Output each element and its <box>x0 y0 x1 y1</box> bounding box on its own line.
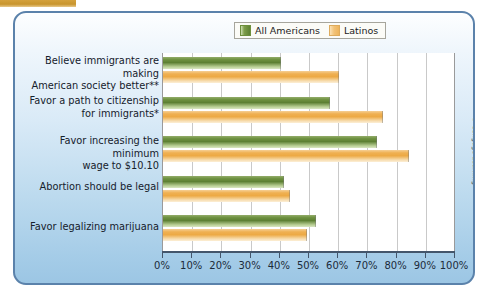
x-axis-tick <box>279 253 280 258</box>
category-axis-labels: Believe immigrants are making American s… <box>25 53 159 251</box>
category-label-4-line-0: Favor legalizing marijuana <box>25 221 159 234</box>
bar-latinos <box>163 111 383 123</box>
bar-all-americans <box>163 176 284 188</box>
bar-group <box>163 211 455 251</box>
x-axis-tick-label: 90% <box>414 260 436 271</box>
chart-panel: All Americans Latinos Believe immigrants… <box>13 11 475 285</box>
x-axis-tick-label: 60% <box>326 260 348 271</box>
chart-legend: All Americans Latinos <box>234 22 386 39</box>
bar-all-americans <box>163 136 377 148</box>
legend-swatch-green-icon <box>240 25 251 36</box>
x-axis-tick <box>220 253 221 258</box>
plot-area <box>162 53 455 251</box>
legend-label-all-americans: All Americans <box>255 26 320 36</box>
category-label-1-line-1: for immigrants* <box>25 108 159 121</box>
category-label-1: Favor a path to citizenship for immigran… <box>25 95 159 120</box>
x-axis-tick-label: 0% <box>154 260 170 271</box>
category-label-4: Favor legalizing marijuana <box>25 221 159 234</box>
category-label-2-line-1: wage to $10.10 <box>25 160 159 173</box>
legend-swatch-orange-icon <box>329 25 340 36</box>
bar-latinos <box>163 229 307 241</box>
category-label-0-line-1: American society better** <box>25 80 159 93</box>
bar-group <box>163 172 455 212</box>
copyright-credit: © Cengage Learning <box>471 116 475 185</box>
x-axis-tick <box>454 253 455 258</box>
x-axis-tick-label: 40% <box>268 260 290 271</box>
x-axis-tick <box>162 253 163 258</box>
page-accent-tab <box>0 0 76 7</box>
x-axis-tick <box>337 253 338 258</box>
x-axis-tick <box>425 253 426 258</box>
bar-latinos <box>163 150 409 162</box>
bar-group <box>163 53 455 93</box>
bar-latinos <box>163 71 339 83</box>
x-axis-tick-label: 50% <box>297 260 319 271</box>
legend-label-latinos: Latinos <box>344 26 378 36</box>
x-axis-tick-label: 80% <box>384 260 406 271</box>
category-label-2: Favor increasing the minimum wage to $10… <box>25 135 159 173</box>
bar-all-americans <box>163 97 330 109</box>
legend-entry-latinos: Latinos <box>329 25 378 36</box>
x-axis-tick <box>308 253 309 258</box>
category-label-0-line-0: Believe immigrants are making <box>25 55 159 80</box>
x-axis-tick <box>250 253 251 258</box>
category-label-2-line-0: Favor increasing the minimum <box>25 135 159 160</box>
x-axis-tick <box>366 253 367 258</box>
bar-group <box>163 132 455 172</box>
bar-group <box>163 93 455 133</box>
legend-entry-all-americans: All Americans <box>240 25 320 36</box>
x-axis-tick-label: 20% <box>209 260 231 271</box>
category-label-3: Abortion should be legal <box>25 181 159 194</box>
bar-latinos <box>163 190 290 202</box>
bar-all-americans <box>163 215 316 227</box>
x-axis-tick <box>191 253 192 258</box>
bar-all-americans <box>163 57 281 69</box>
chart-figure: All Americans Latinos Believe immigrants… <box>0 0 489 298</box>
category-label-0: Believe immigrants are making American s… <box>25 55 159 93</box>
x-axis-tick-label: 10% <box>180 260 202 271</box>
x-axis-tick-label: 30% <box>238 260 260 271</box>
x-axis-tick <box>396 253 397 258</box>
category-label-1-line-0: Favor a path to citizenship <box>25 95 159 108</box>
x-axis-tick-label: 70% <box>355 260 377 271</box>
x-axis-tick-label: 100% <box>440 260 469 271</box>
category-label-3-line-0: Abortion should be legal <box>25 181 159 194</box>
